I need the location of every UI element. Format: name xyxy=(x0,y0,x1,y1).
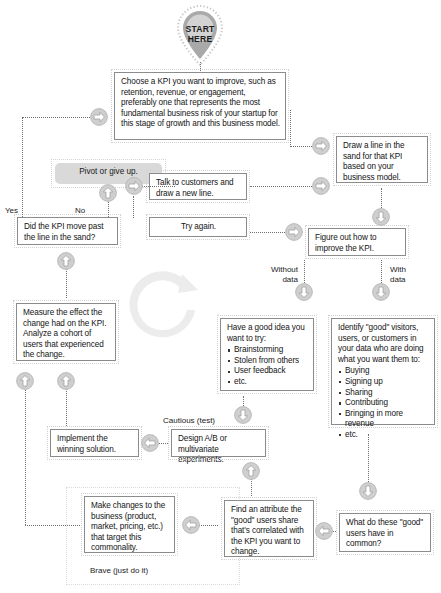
arrowhead-up-to-didkpi xyxy=(57,252,75,270)
edge-no-riser xyxy=(133,196,134,218)
node-have-good-idea[interactable]: Have a good idea you want to try: Brains… xyxy=(220,318,314,391)
edge-makechanges-riser xyxy=(25,388,26,525)
identify-good-list: BuyingSigning upSharingContributingBring… xyxy=(338,366,429,440)
edge-drawline-to-figureout xyxy=(381,188,382,210)
node-pivot-or-give-up[interactable]: Pivot or give up. xyxy=(55,163,162,184)
edge-choose-down-right xyxy=(290,110,291,147)
arrowhead-right-to-figureout xyxy=(285,223,303,241)
good-idea-heading: Have a good idea you want to try: xyxy=(227,323,308,344)
edge-label-no: No xyxy=(75,206,85,216)
node-draw-line-in-sand[interactable]: Draw a line in the sand for that KPI bas… xyxy=(336,136,428,183)
edge-talk-to-drawline xyxy=(250,186,312,187)
start-here-badge: STARTHERE xyxy=(170,4,230,66)
arrowhead-left-to-makechanges xyxy=(182,516,200,534)
good-idea-list: BrainstormingStolen from othersUser feed… xyxy=(227,345,308,387)
edge-tryagain-to-figureout xyxy=(250,232,285,233)
start-line-1: START xyxy=(185,24,214,34)
edge-implement-to-measure xyxy=(66,388,67,426)
edge-identify-to-whatcommon xyxy=(368,434,369,484)
list-item: Bringing in more revenue xyxy=(345,409,429,430)
flowchart-canvas: STARTHERE Choose a KPI you want to impro… xyxy=(0,0,441,593)
list-item: Brainstorming xyxy=(234,345,308,356)
list-item: Signing up xyxy=(345,377,429,388)
node-make-changes[interactable]: Make changes to the business (product, m… xyxy=(84,496,175,553)
edge-start-to-choose xyxy=(200,62,201,71)
start-badge-label: STARTHERE xyxy=(170,24,230,44)
arrowhead-up-to-measure-left xyxy=(16,372,34,390)
edge-label-without-data: Without data xyxy=(258,265,298,284)
arrowhead-up-to-designab xyxy=(242,462,260,480)
edge-label-yes: Yes xyxy=(5,206,18,216)
edge-label-cautious: Cautious (test) xyxy=(163,416,215,426)
list-item: Sharing xyxy=(345,388,429,399)
node-did-kpi-move[interactable]: Did the KPI move past the line in the sa… xyxy=(17,217,118,245)
node-choose-kpi[interactable]: Choose a KPI you want to improve, such a… xyxy=(114,72,286,140)
arrowhead-left-to-findattr xyxy=(315,522,333,540)
edge-makechanges-to-riser xyxy=(25,525,80,526)
node-implement-winning-solution[interactable]: Implement the winning solution. xyxy=(50,429,139,457)
edge-yes-top xyxy=(22,117,90,118)
edge-label-with-data: With data xyxy=(390,265,406,284)
arrowhead-down-with-data xyxy=(372,283,390,301)
edge-with-data xyxy=(381,260,382,285)
node-measure-effect[interactable]: Measure the effect the change had on the… xyxy=(16,303,116,361)
list-item: etc. xyxy=(234,377,308,388)
node-identify-good-users[interactable]: Identify "good" visitors, users, or cust… xyxy=(331,318,435,425)
edge-choose-to-drawline xyxy=(290,146,312,147)
list-item: Contributing xyxy=(345,398,429,409)
node-figure-out-how[interactable]: Figure out how to improve the KPI. xyxy=(308,228,406,256)
start-line-2: HERE xyxy=(188,34,213,44)
edge-measure-to-didkpi xyxy=(66,268,67,298)
edge-findattr-to-designab xyxy=(251,478,252,496)
node-find-attribute[interactable]: Find an attribute the "good" users share… xyxy=(224,500,314,557)
edge-label-brave: Brave (just do it) xyxy=(90,566,148,576)
node-try-again[interactable]: Try again. xyxy=(149,217,247,237)
list-item: Buying xyxy=(345,366,429,377)
arrowhead-right-to-talk xyxy=(125,177,143,195)
node-design-ab-experiments[interactable]: Design A/B or multivariate experiments. xyxy=(171,429,266,457)
arrowhead-down-without-data xyxy=(295,283,313,301)
arrowhead-down-to-designab xyxy=(234,406,252,424)
arrowhead-right-to-drawline-2 xyxy=(312,177,330,195)
edge-yes-riser xyxy=(22,117,23,217)
arrowhead-right-to-choose xyxy=(90,108,108,126)
arrowhead-down-to-figureout xyxy=(372,208,390,226)
list-item: User feedback xyxy=(234,366,308,377)
list-item: etc. xyxy=(345,430,429,441)
node-what-in-common[interactable]: What do these "good" users have in commo… xyxy=(339,513,431,552)
identify-good-heading: Identify "good" visitors, users, or cust… xyxy=(338,323,429,365)
arrowhead-up-to-pivot xyxy=(99,184,117,202)
list-item: Stolen from others xyxy=(234,356,308,367)
arrowhead-up-to-measure-right xyxy=(57,372,75,390)
arrowhead-right-to-drawline xyxy=(312,137,330,155)
cycle-arrow-watermark xyxy=(120,262,206,348)
arrowhead-left-to-implement xyxy=(141,434,159,452)
edge-no-to-pivot xyxy=(108,200,109,217)
arrowhead-down-to-whatcommon xyxy=(359,482,377,500)
edge-without-data xyxy=(304,260,305,285)
